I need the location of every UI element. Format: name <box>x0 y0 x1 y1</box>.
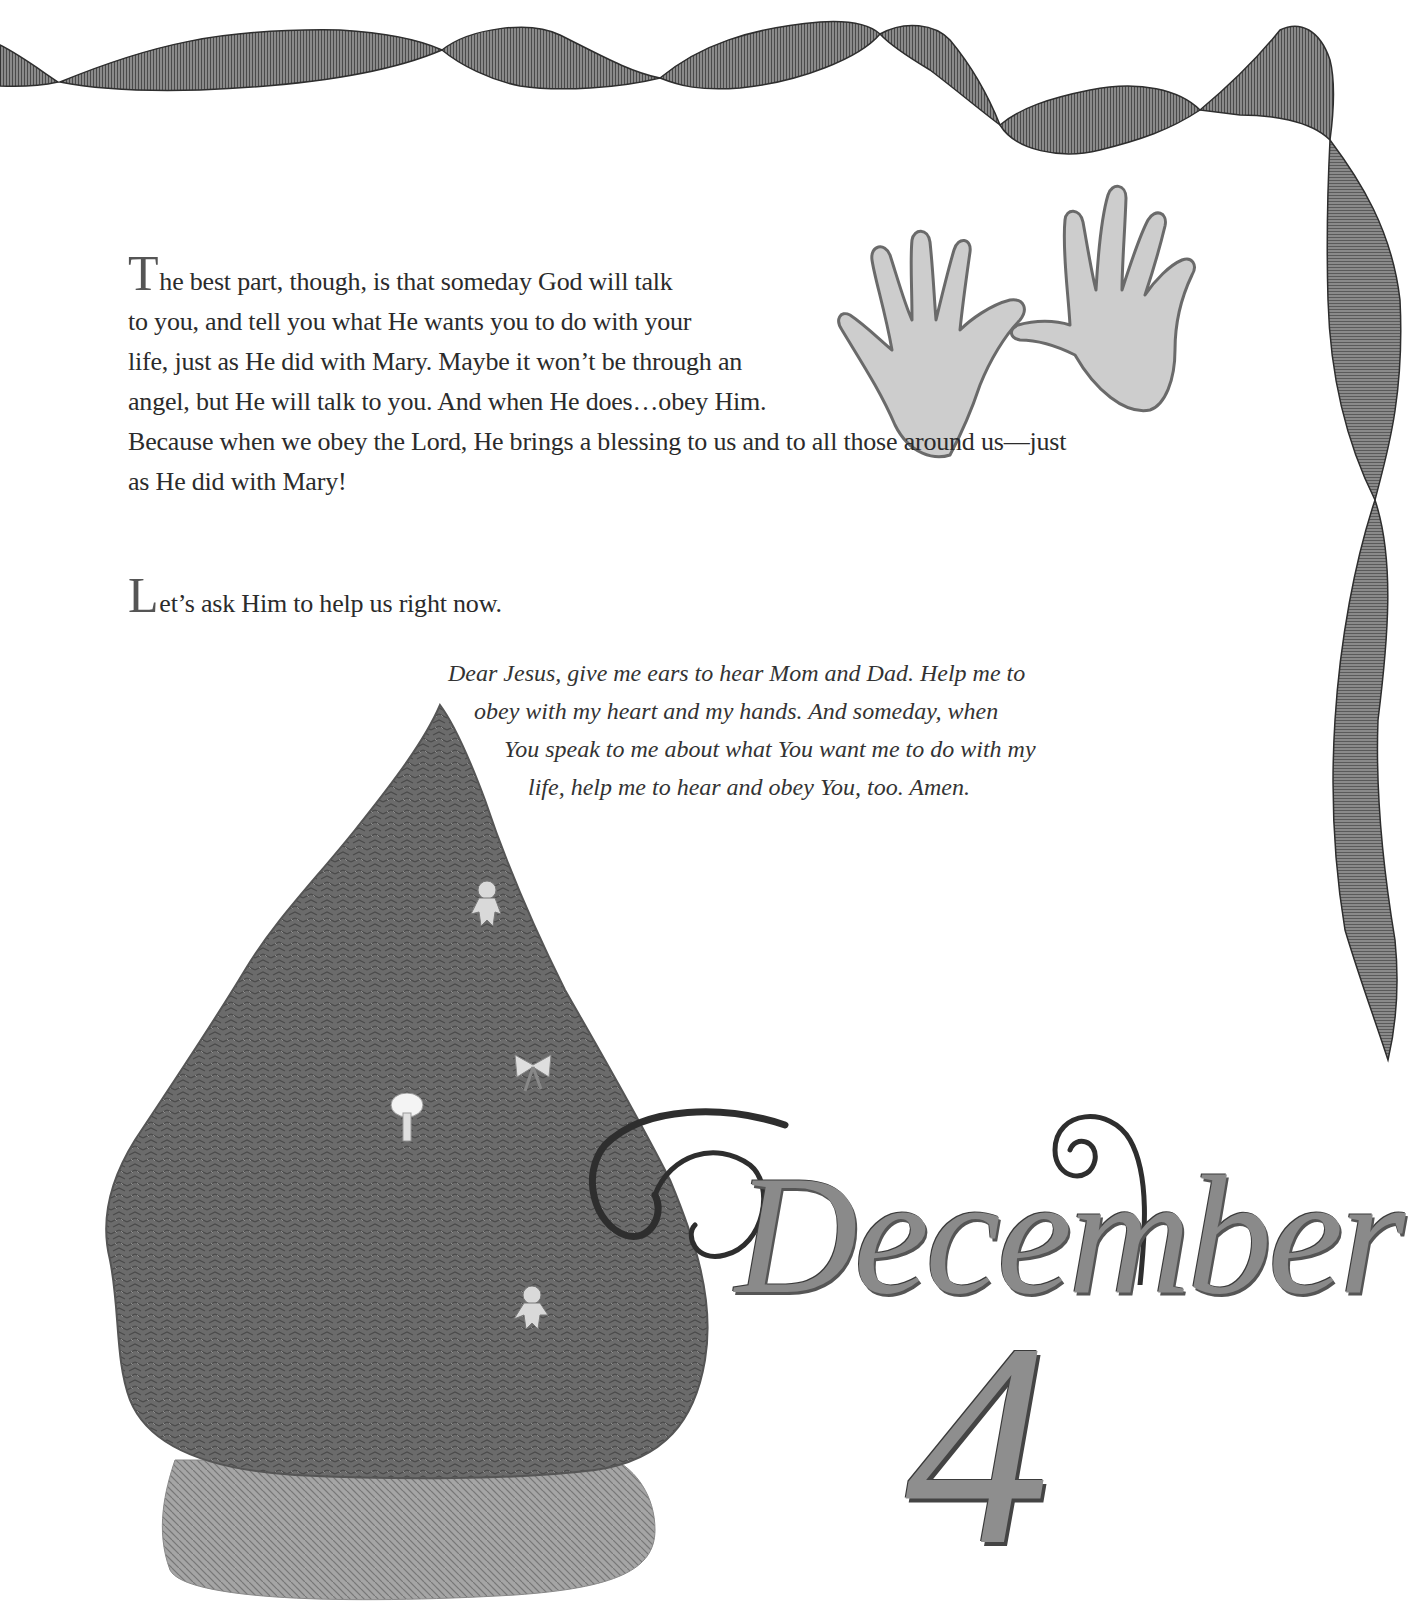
paragraph-line: as He did with Mary! <box>128 462 1248 502</box>
prayer-text: Dear Jesus, give me ears to hear Mom and… <box>448 654 1148 806</box>
drop-cap: T <box>128 245 158 301</box>
paragraph-line: angel, but He will talk to you. And when… <box>128 382 1248 422</box>
invitation-paragraph: Let’s ask Him to help us right now. <box>128 580 502 624</box>
paragraph-text: et’s ask Him to help us right now. <box>159 589 502 618</box>
prayer-line: obey with my heart and my hands. And som… <box>448 692 1148 730</box>
story-paragraph: The best part, though, is that someday G… <box>128 258 1248 502</box>
prayer-line: life, help me to hear and obey You, too.… <box>448 768 1148 806</box>
paragraph-line: Because when we obey the Lord, He brings… <box>128 422 1248 462</box>
paragraph-line: he best part, though, is that someday Go… <box>159 267 672 296</box>
date-day-number: 4 <box>905 1300 1050 1590</box>
prayer-line: You speak to me about what You want me t… <box>448 730 1148 768</box>
date-month-heading: December <box>735 1150 1402 1320</box>
paragraph-line: to you, and tell you what He wants you t… <box>128 302 1248 342</box>
prayer-line: Dear Jesus, give me ears to hear Mom and… <box>448 654 1148 692</box>
paragraph-line: life, just as He did with Mary. Maybe it… <box>128 342 1248 382</box>
drop-cap: L <box>128 567 158 623</box>
